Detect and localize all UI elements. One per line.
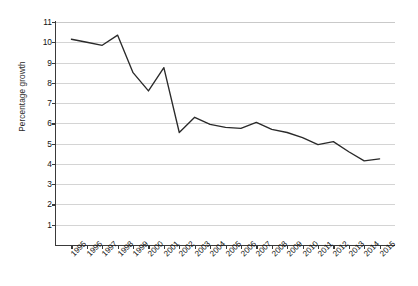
y-tick-label-9: 9 bbox=[30, 58, 52, 68]
y-tick-label-8: 8 bbox=[30, 78, 52, 88]
y-tick-label-7: 7 bbox=[30, 98, 52, 108]
line-chart: Percentage growth 1110987654321 19951996… bbox=[0, 0, 418, 286]
y-tick-label-1: 1 bbox=[30, 220, 52, 230]
y-tick-mark-4 bbox=[52, 164, 56, 165]
plot-area bbox=[56, 22, 395, 245]
y-tick-mark-1 bbox=[52, 225, 56, 226]
data-series-svg bbox=[56, 22, 395, 245]
y-tick-label-10: 10 bbox=[30, 37, 52, 47]
y-tick-mark-11 bbox=[52, 22, 56, 23]
y-tick-label-5: 5 bbox=[30, 139, 52, 149]
y-tick-label-3: 3 bbox=[30, 179, 52, 189]
y-axis-title: Percentage growth bbox=[18, 37, 27, 157]
data-line-percentage-growth bbox=[71, 35, 379, 161]
y-tick-mark-10 bbox=[52, 42, 56, 43]
y-tick-mark-5 bbox=[52, 144, 56, 145]
y-tick-mark-6 bbox=[52, 123, 56, 124]
y-tick-label-2: 2 bbox=[30, 199, 52, 209]
y-tick-label-6: 6 bbox=[30, 118, 52, 128]
y-axis-tick-labels: 1110987654321 bbox=[28, 0, 52, 286]
y-tick-mark-3 bbox=[52, 184, 56, 185]
y-tick-mark-7 bbox=[52, 103, 56, 104]
y-tick-mark-8 bbox=[52, 83, 56, 84]
y-tick-mark-9 bbox=[52, 63, 56, 64]
y-tick-mark-2 bbox=[52, 204, 56, 205]
y-tick-label-11: 11 bbox=[30, 17, 52, 27]
y-tick-label-4: 4 bbox=[30, 159, 52, 169]
